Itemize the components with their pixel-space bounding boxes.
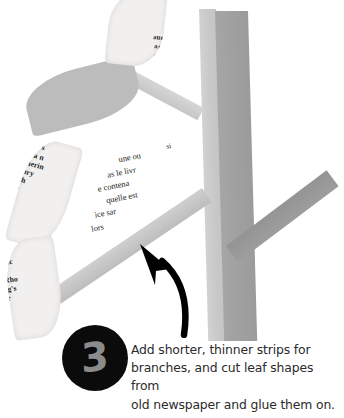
newsprint-text-lower: to e 19 t lea attrac n. re Rho king's te… xyxy=(1,235,66,314)
newsprint-superscript: si xyxy=(165,140,172,153)
instruction-line: branches, and cut leaf shapes from xyxy=(131,359,339,395)
leaf-plain-upper-left xyxy=(20,55,145,137)
newsprint-text-middle: ve ds or c Byrne's es of a n Catherin en… xyxy=(6,135,84,212)
leaf-shape xyxy=(20,55,145,137)
leaf-newspaper-lower-left: to e 19 t lea attrac n. re Rho king's te… xyxy=(1,235,66,341)
leaf-shape: (Tr), Dinah pe cho io inve the one M. ca… xyxy=(104,0,167,69)
craft-photo-illustration: (Tr), Dinah pe cho io inve the one M. ca… xyxy=(0,0,344,418)
newsprint-text-top: (Tr), Dinah pe cho io inve the one M. ca… xyxy=(104,10,167,68)
curved-arrow-icon xyxy=(118,228,196,338)
step-number-badge: 3 xyxy=(62,325,128,391)
leaf-newspaper-top: (Tr), Dinah pe cho io inve the one M. ca… xyxy=(104,0,167,69)
step-number-text: 3 xyxy=(80,336,109,379)
instruction-line: old newspaper and glue them on. xyxy=(131,396,339,414)
instruction-line: Add shorter, thinner strips for xyxy=(131,341,339,359)
leaf-shape: to e 19 t lea attrac n. re Rho king's te… xyxy=(1,235,66,341)
step-instruction-text: Add shorter, thinner strips for branches… xyxy=(131,341,339,414)
